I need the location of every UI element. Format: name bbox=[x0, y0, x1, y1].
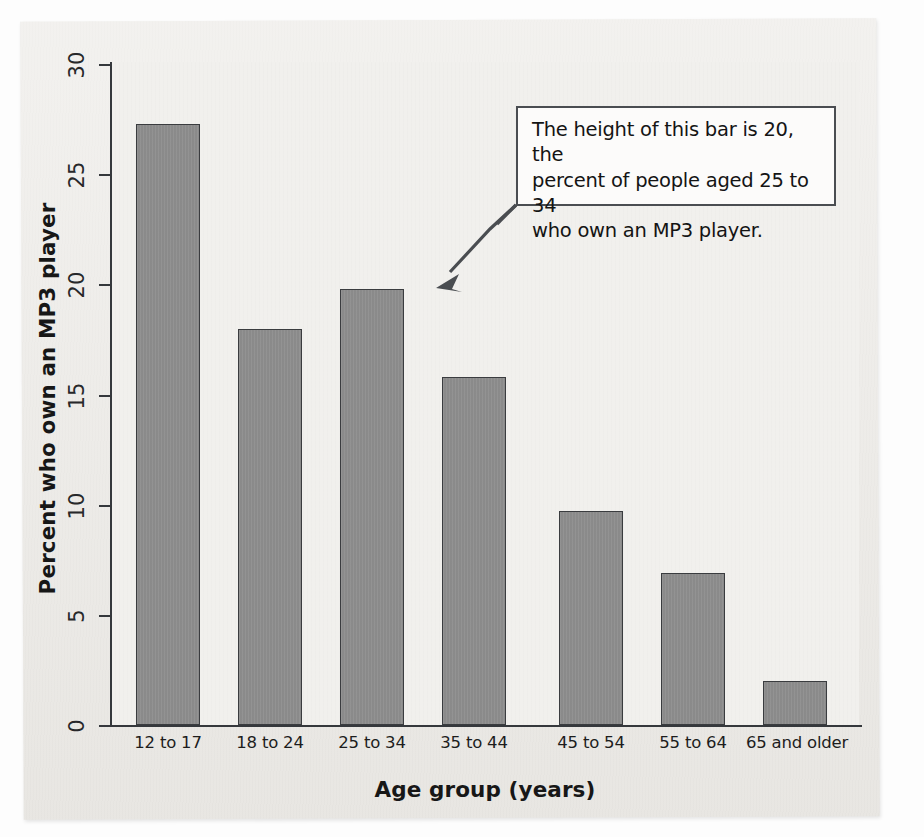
bar-35-to-44 bbox=[442, 377, 506, 725]
x-axis-title: Age group (years) bbox=[111, 777, 859, 802]
annotation-line-3: who own an MP3 player. bbox=[532, 218, 821, 243]
y-axis-tick-5 bbox=[99, 615, 110, 617]
bar-55-to-64 bbox=[661, 573, 725, 725]
annotation-line-2: percent of people aged 25 to 34 bbox=[532, 168, 821, 219]
y-axis-tick-10 bbox=[99, 505, 110, 507]
y-axis-tick-label-25: 25 bbox=[65, 158, 89, 192]
x-axis-tick-label-45-to-54: 45 to 54 bbox=[541, 733, 641, 752]
bar-45-to-54 bbox=[559, 511, 623, 725]
x-axis-tick-label-35-to-44: 35 to 44 bbox=[424, 733, 524, 752]
y-axis-tick-15 bbox=[99, 395, 110, 397]
x-axis-tick-label-18-to-24: 18 to 24 bbox=[220, 733, 320, 752]
bar-65-and-older bbox=[763, 681, 827, 725]
y-axis-tick-25 bbox=[99, 174, 110, 176]
x-axis-tick-label-65-and-older: 65 and older bbox=[737, 733, 857, 752]
y-axis-tick-label-0: 0 bbox=[65, 709, 89, 743]
annotation-callout: The height of this bar is 20, the percen… bbox=[516, 106, 836, 206]
x-axis-tick-label-25-to-34: 25 to 34 bbox=[322, 733, 422, 752]
x-axis-tick-label-12-to-17: 12 to 17 bbox=[118, 733, 218, 752]
x-axis-tick-label-55-to-64: 55 to 64 bbox=[643, 733, 743, 752]
y-axis-title: Percent who own an MP3 player bbox=[35, 189, 60, 609]
y-axis-tick-label-5: 5 bbox=[65, 599, 89, 633]
annotation-line-1: The height of this bar is 20, the bbox=[532, 117, 821, 168]
bar-25-to-34 bbox=[340, 289, 404, 725]
y-axis-tick-label-10: 10 bbox=[65, 489, 89, 523]
x-axis-line bbox=[110, 725, 862, 727]
y-axis-tick-30 bbox=[99, 64, 110, 66]
y-axis-tick-label-30: 30 bbox=[65, 48, 89, 82]
bar-18-to-24 bbox=[238, 329, 302, 725]
y-axis-line bbox=[110, 62, 112, 727]
y-axis-tick-label-20: 20 bbox=[65, 268, 89, 302]
page-canvas: 0 5 10 15 20 25 30 Percent who own an MP… bbox=[0, 0, 924, 837]
y-axis-tick-label-15: 15 bbox=[65, 379, 89, 413]
annotation-callout-text: The height of this bar is 20, the percen… bbox=[532, 117, 821, 244]
bar-12-to-17 bbox=[136, 124, 200, 725]
y-axis-tick-20 bbox=[99, 284, 110, 286]
y-axis-tick-0 bbox=[99, 725, 110, 727]
bar-chart: 0 5 10 15 20 25 30 Percent who own an MP… bbox=[0, 0, 924, 837]
